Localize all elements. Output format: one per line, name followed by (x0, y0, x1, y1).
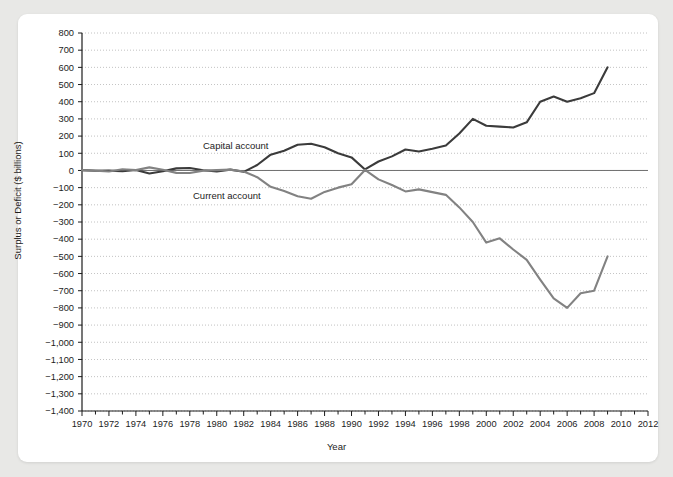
y-tick-label: −1,200 (45, 372, 74, 382)
grid-lines (82, 33, 648, 411)
y-tick-label: −800 (53, 303, 74, 313)
screenshot-root: 8007006005004003002001000−100−200−300−40… (0, 0, 673, 477)
y-tick-label: −700 (53, 286, 74, 296)
y-tick-label: −1,000 (45, 338, 74, 348)
x-tick-label: 1984 (260, 419, 281, 429)
y-tick-label: 100 (58, 149, 74, 159)
y-tick-label: −500 (53, 252, 74, 262)
x-tick-label: 1988 (314, 419, 335, 429)
x-tick-label: 1974 (126, 419, 147, 429)
series-line-current-account (82, 167, 608, 308)
series-label-current-account: Current account (193, 190, 261, 201)
y-tick-label: −1,100 (45, 355, 74, 365)
y-tick-label: 700 (58, 45, 74, 55)
x-tick-label: 1970 (72, 419, 93, 429)
x-tick-label: 1980 (206, 419, 227, 429)
y-tick-label: 500 (58, 80, 74, 90)
y-tick-label: 300 (58, 114, 74, 124)
x-tick-label: 2000 (476, 419, 497, 429)
x-tick-label: 2010 (611, 419, 632, 429)
chart-svg: 8007006005004003002001000−100−200−300−40… (0, 0, 673, 477)
y-tick-label: −100 (53, 183, 74, 193)
x-tick-label: 2002 (503, 419, 524, 429)
x-tick-label: 2008 (584, 419, 605, 429)
x-tick-label: 1994 (395, 419, 416, 429)
x-tick-label: 2004 (530, 419, 551, 429)
y-tick-label: 800 (58, 28, 74, 38)
x-tick-label: 1978 (179, 419, 200, 429)
series-label-capital-account: Capital account (203, 140, 268, 151)
y-tick-label: 0 (69, 166, 74, 176)
y-tick-label: −400 (53, 234, 74, 244)
y-tick-label: 200 (58, 131, 74, 141)
tick-labels: 8007006005004003002001000−100−200−300−40… (45, 28, 658, 429)
y-tick-label: −200 (53, 200, 74, 210)
x-tick-label: 1992 (368, 419, 389, 429)
x-tick-label: 2012 (638, 419, 659, 429)
x-tick-label: 1996 (422, 419, 443, 429)
y-axis-label: Surplus or Deficit ($ billions) (12, 116, 23, 286)
y-tick-label: −300 (53, 217, 74, 227)
y-tick-label: −600 (53, 269, 74, 279)
x-tick-label: 1976 (153, 419, 174, 429)
y-tick-label: 600 (58, 63, 74, 73)
x-axis-label: Year (0, 441, 673, 452)
x-tick-label: 1990 (341, 419, 362, 429)
x-tick-label: 1998 (449, 419, 470, 429)
chart-plot-area: 8007006005004003002001000−100−200−300−40… (0, 0, 673, 477)
y-tick-label: −900 (53, 320, 74, 330)
y-tick-label: −1,300 (45, 389, 74, 399)
y-tick-label: 400 (58, 97, 74, 107)
axes (78, 33, 648, 416)
series-line-capital-account (82, 67, 608, 173)
x-tick-label: 1972 (99, 419, 120, 429)
x-tick-label: 1982 (233, 419, 254, 429)
y-tick-label: −1,400 (45, 406, 74, 416)
x-tick-label: 2006 (557, 419, 578, 429)
x-tick-label: 1986 (287, 419, 308, 429)
